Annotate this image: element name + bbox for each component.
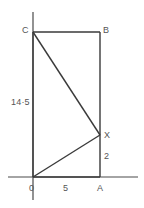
vertex-label-c: C bbox=[22, 26, 29, 35]
vertex-label-a: A bbox=[97, 184, 103, 193]
segment-c-to-x bbox=[33, 32, 100, 135]
origin-label: 0 bbox=[29, 184, 34, 193]
segment-origin-to-x bbox=[33, 135, 100, 177]
length-label-left-side: 14·5 bbox=[11, 98, 30, 107]
vertex-label-x: X bbox=[104, 131, 110, 140]
length-label-lower-right: 2 bbox=[104, 152, 109, 161]
length-label-bottom: 5 bbox=[63, 184, 68, 193]
vertex-label-b: B bbox=[103, 26, 109, 35]
geometry-diagram: C B 14·5 X 2 0 5 A bbox=[0, 0, 144, 208]
